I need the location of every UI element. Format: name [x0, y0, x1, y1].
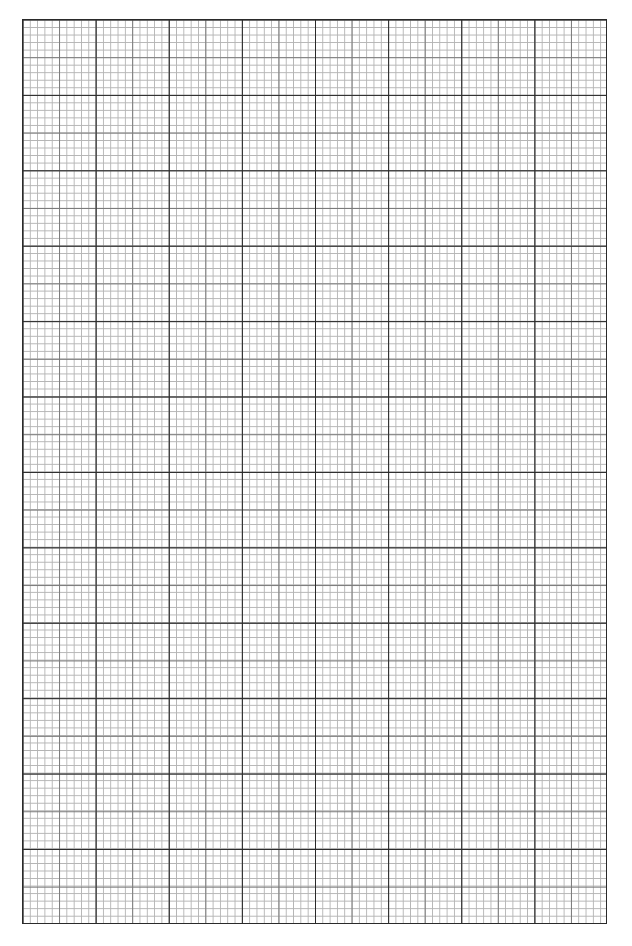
graph-paper-grid: [22, 19, 607, 924]
